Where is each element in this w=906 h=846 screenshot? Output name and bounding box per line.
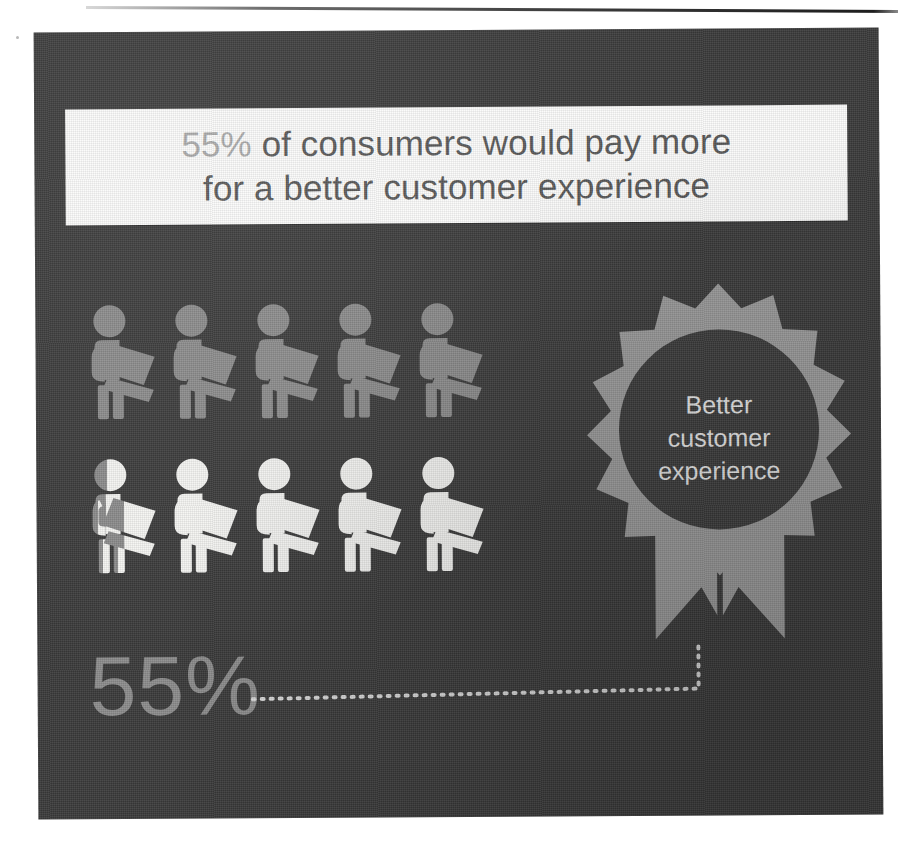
pictogram-people-grid <box>85 300 487 610</box>
title-banner: 55% of consumers would pay more for a be… <box>65 105 848 226</box>
title-line-2: for a better customer experience <box>203 163 710 210</box>
shopper-with-bags-icon-filled <box>250 455 323 581</box>
shopper-with-bags-icon-filled <box>168 455 241 581</box>
title-line-1: 55% of consumers would pay more <box>181 119 731 166</box>
infographic-poster: 55% of consumers would pay more for a be… <box>34 27 884 819</box>
shopper-with-bags-icon <box>331 300 404 426</box>
stat-leader-line <box>250 628 706 736</box>
shopper-with-bags-icon <box>167 301 240 427</box>
title-stat-percent: 55% <box>181 124 252 163</box>
shopper-with-bags-icon-half <box>86 456 159 582</box>
bottom-stat-value: 55% <box>89 643 261 728</box>
ribbon-inner-disc <box>618 329 819 530</box>
shopper-with-bags-icon <box>413 300 486 426</box>
pictogram-row-bottom <box>86 454 487 582</box>
shopper-with-bags-icon <box>85 302 158 428</box>
shopper-with-bags-icon-filled <box>414 454 487 580</box>
award-ribbon-icon: Better customer experience <box>573 273 865 675</box>
shopper-with-bags-icon <box>249 301 322 427</box>
title-line-1-rest: of consumers would pay more <box>252 121 732 163</box>
pictogram-row-top <box>85 300 486 428</box>
scan-artifact-speck <box>16 36 19 39</box>
shopper-with-bags-icon-filled <box>332 454 405 580</box>
scan-page-edge-line <box>86 6 898 13</box>
